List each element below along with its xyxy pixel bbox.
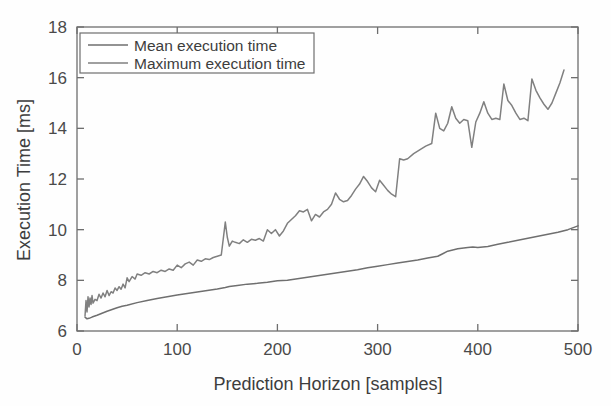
y-tick-label: 8 xyxy=(58,271,67,290)
legend-label-mean[interactable]: Mean execution time xyxy=(134,37,277,54)
x-tick-label: 500 xyxy=(564,340,592,359)
y-tick-label: 6 xyxy=(58,322,67,341)
x-axis-title: Prediction Horizon [samples] xyxy=(213,374,442,394)
y-tick-label: 18 xyxy=(48,18,67,37)
y-tick-label: 16 xyxy=(48,69,67,88)
execution-time-line-chart: 681012141618 0100200300400500 Mean execu… xyxy=(0,0,611,406)
legend-label-maximum[interactable]: Maximum execution time xyxy=(134,55,305,72)
y-axis-title: Execution Time [ms] xyxy=(14,99,34,261)
x-tick-label: 0 xyxy=(72,340,81,359)
chart-figure: 681012141618 0100200300400500 Mean execu… xyxy=(0,0,611,406)
x-tick-label: 100 xyxy=(163,340,191,359)
chart-legend[interactable]: Mean execution timeMaximum execution tim… xyxy=(80,33,314,73)
x-tick-label: 300 xyxy=(363,340,391,359)
y-tick-label: 14 xyxy=(48,119,67,138)
x-tick-label: 200 xyxy=(263,340,291,359)
y-tick-label: 12 xyxy=(48,170,67,189)
y-tick-label: 10 xyxy=(48,221,67,240)
x-tick-label: 400 xyxy=(464,340,492,359)
